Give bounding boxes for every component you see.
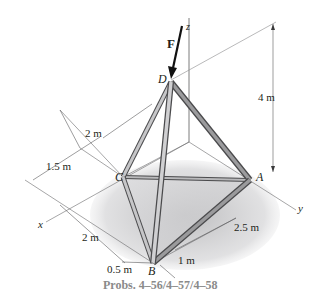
x-axis-label: x: [37, 218, 43, 230]
dimension-d-c: 2 m: [85, 127, 102, 139]
y-axis-label: y: [297, 202, 303, 214]
z-axis-label: z: [185, 21, 190, 32]
z-axis: z: [185, 18, 190, 142]
dimension-c-x: 1.5 m: [46, 160, 72, 172]
height-dimension-label: 4 m: [258, 91, 275, 103]
dimension-b-offset: 0.5 m: [107, 263, 133, 275]
point-b-label: B: [148, 264, 156, 278]
dimension-b-y: 1 m: [178, 254, 195, 266]
force-label: F: [167, 36, 175, 51]
point-a-label: A: [255, 170, 264, 184]
tetrahedron-diagram: z 4 m F D C A B x y: [0, 0, 314, 294]
force-arrow: F: [167, 26, 182, 79]
point-d-label: D: [157, 72, 167, 86]
figure-caption: Probs. 4–56/4–57/4–58: [103, 278, 217, 292]
dimension-x-b: 2 m: [82, 231, 99, 243]
dimension-a-y: 2.5 m: [234, 221, 260, 233]
point-c-label: C: [115, 170, 124, 184]
